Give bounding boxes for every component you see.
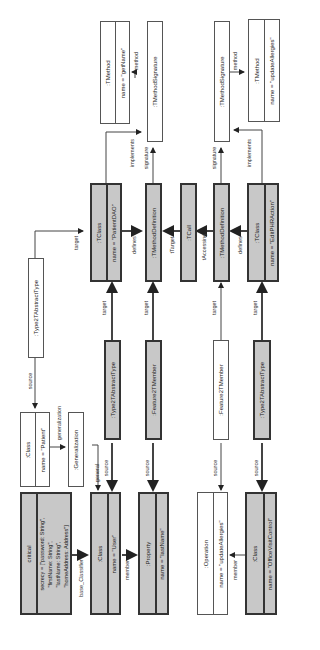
edge-label-source-type2t: source: [27, 373, 33, 390]
edge-label-target-2: target: [143, 301, 149, 315]
node-attr: name = "getName": [119, 47, 126, 97]
node-title: :Feature2TMember: [150, 364, 157, 415]
class-patient-node: :Class name = "Patient": [20, 412, 50, 487]
node-title: :Generalization: [73, 429, 80, 469]
edge-label-base-classifier: base_Classifier: [78, 559, 84, 597]
edge-label-signature-bottom: signature: [211, 147, 217, 170]
node-title: :TCall: [185, 225, 192, 241]
edge-label-member-1: member: [124, 560, 130, 580]
edge-label-implements-bottom: implements: [246, 139, 252, 167]
tmethod-getname-node: :TMethod name = "getName": [100, 21, 130, 124]
type2t-abstracttype-gray-top-node: :Type2TAbstractType: [104, 340, 121, 440]
edge-label-ttarget: tTarget: [169, 237, 175, 254]
node-title: :Type2TAbstractType: [109, 362, 116, 418]
node-attr: name = "lastName": [159, 528, 166, 579]
class-user-node: :Class name = "User": [90, 492, 121, 615]
feature2tmember-white-node: :Feature2TMember: [213, 340, 229, 440]
node-title: :Feature2TMember: [218, 364, 225, 415]
generalization-node: :Generalization: [68, 412, 84, 487]
edge-label-generalization: generalization: [56, 406, 62, 440]
type2t-abstracttype-white-node: :Type2TAbstractType: [28, 258, 44, 358]
node-attr: name = "OfficeVisitControl": [267, 517, 274, 589]
node-title: :TClass: [253, 222, 260, 242]
node-title: :Class: [96, 545, 103, 562]
edge-label-target-3: target: [211, 301, 217, 315]
critical-stereotype-node: critical secrecy = ["password: String", …: [20, 492, 72, 615]
edge-label-target-1: target: [101, 301, 107, 315]
node-title: :TMethod: [105, 60, 112, 85]
node-attr: name = "updateAllergies": [269, 37, 276, 104]
node-attr: name = "PatientDAO": [111, 204, 118, 262]
tmethodsig-top-node: :TMethodSignature: [147, 21, 163, 142]
edge-label-member-2: member: [232, 560, 238, 580]
edge-label-target-patientdao: target: [73, 236, 79, 250]
edge-label-source-1: source: [103, 460, 109, 477]
tmethod-updateallergies-node: :TMethod name = "updateAllergies": [248, 19, 280, 122]
node-attr: name = "Patient": [39, 427, 46, 472]
tmethoddef-bottom-node: :TMethodDefinition: [213, 183, 230, 282]
node-title: :Class: [252, 545, 259, 562]
edge-label-defines-bottom: defines: [237, 236, 243, 254]
edge-label-signature-top: signature: [143, 147, 149, 170]
type2t-abstracttype-gray-bottom-node: :Type2TAbstractType: [253, 340, 271, 440]
edge-label-target-4: target: [252, 301, 258, 315]
tclass-patientdao-node: :TClass name = "PatientDAO": [90, 183, 122, 282]
edge-label-taccessing: tAccessing: [201, 234, 207, 261]
node-title: :TMethodSignature: [219, 56, 226, 107]
node-attr: secrecy = ["password: String", "firstNam…: [38, 517, 70, 590]
node-title: :Property: [144, 541, 151, 565]
property-lastname-node: :Property name = "lastName": [138, 492, 169, 615]
node-title: :Type2TAbstractType: [259, 362, 266, 418]
tmethodsig-bottom-node: :TMethodSignature: [214, 21, 230, 142]
node-attr: name = "EditPHRAction": [268, 200, 275, 266]
class-officevisitcontrol-node: :Class name = "OfficeVisitControl": [245, 492, 277, 615]
tcall-node: :TCall: [180, 183, 197, 282]
edge-label-defines-top: defines: [131, 236, 137, 254]
edge-label-method-top: method: [133, 52, 139, 70]
edge-label-source-2: source: [144, 460, 150, 477]
node-title: :TMethod: [253, 58, 260, 83]
edge-label-method-bottom: method: [232, 52, 238, 70]
tmethoddef-top-node: :TMethodDefinition: [145, 183, 162, 282]
edge-label-general: general: [94, 464, 100, 482]
node-title: :TMethodDefinition: [150, 207, 157, 257]
node-title: :TMethodDefinition: [218, 207, 225, 257]
node-title: :TMethodSignature: [152, 56, 159, 107]
tclass-editphraction-node: :TClass name = "EditPHRAction": [247, 183, 279, 282]
node-title: :Class: [25, 441, 32, 458]
node-title: :TClass: [96, 222, 103, 242]
node-attr: name = "updateAllergies": [217, 520, 224, 587]
node-title: :Operation: [202, 539, 209, 567]
node-title: :Type2TAbstractType: [33, 280, 40, 336]
node-attr: name = "User": [111, 534, 118, 573]
feature2tmember-gray-node: :Feature2TMember: [145, 340, 162, 440]
edge-label-source-4: source: [253, 460, 259, 477]
edge-label-source-3: source: [212, 460, 218, 477]
node-title: critical: [26, 545, 33, 562]
edge-label-implements-top: implements: [129, 139, 135, 167]
operation-updateallergies-node: :Operation name = "updateAllergies": [197, 492, 228, 615]
